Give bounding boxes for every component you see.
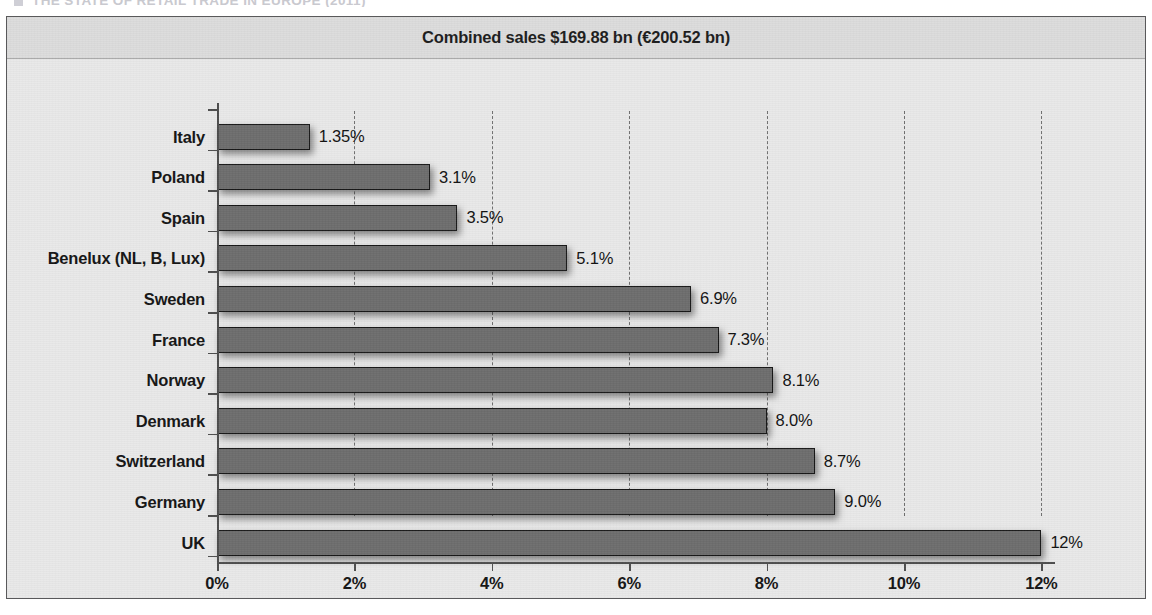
bar-row[interactable]: 1.35% [217, 116, 365, 157]
y-tick [208, 150, 217, 152]
bar-germany[interactable] [217, 489, 835, 515]
bar-value-label: 7.3% [728, 330, 765, 349]
y-category-sweden: Sweden [144, 289, 205, 308]
bar-denmark[interactable] [217, 408, 767, 434]
document-headline: THE STATE OF RETAIL TRADE IN EUROPE (201… [14, 0, 814, 7]
x-tick-8pct [767, 562, 769, 571]
bar-value-label: 8.0% [776, 411, 813, 430]
bar-benelux-nl-b-lux[interactable] [217, 245, 567, 271]
bar-value-label: 3.1% [439, 168, 476, 187]
bar-value-label: 9.0% [844, 492, 881, 511]
x-tick-12pct [1041, 562, 1043, 571]
y-category-spain: Spain [161, 208, 205, 227]
x-tick-label-6pct: 6% [617, 574, 640, 593]
combined-sales-label: Combined sales $169.88 bn (€200.52 bn) [422, 28, 730, 47]
y-tick [208, 353, 217, 355]
bar-sweden[interactable] [217, 286, 691, 312]
y-category-poland: Poland [151, 168, 205, 187]
bar-switzerland[interactable] [217, 448, 815, 474]
chart-header-bar: Combined sales $169.88 bn (€200.52 bn) [7, 17, 1145, 59]
y-tick [208, 312, 217, 314]
bar-france[interactable] [217, 327, 719, 353]
y-tick [208, 109, 217, 111]
bar-italy[interactable] [217, 124, 310, 150]
x-tick-10pct [904, 562, 906, 571]
x-tick-label-4pct: 4% [480, 574, 503, 593]
bar-row[interactable]: 5.1% [217, 238, 613, 279]
bar-value-label: 3.5% [466, 208, 503, 227]
y-tick [208, 190, 217, 192]
x-tick-6pct [629, 562, 631, 571]
y-tick [208, 393, 217, 395]
x-axis-line [217, 562, 1055, 564]
bar-norway[interactable] [217, 367, 773, 393]
y-tick [208, 231, 217, 233]
bar-row[interactable]: 3.5% [217, 197, 503, 238]
bar-value-label: 1.35% [319, 127, 365, 146]
plot-wrapper: 1.35%3.1%3.5%5.1%6.9%7.3%8.1%8.0%8.7%9.0… [7, 59, 1146, 599]
y-category-france: France [152, 330, 205, 349]
bar-value-label: 6.9% [700, 289, 737, 308]
y-category-norway: Norway [147, 371, 205, 390]
chart-panel: Combined sales $169.88 bn (€200.52 bn) 1… [6, 16, 1146, 599]
bar-row[interactable]: 8.0% [217, 400, 812, 441]
bar-row[interactable]: 7.3% [217, 319, 764, 360]
bar-value-label: 8.1% [782, 371, 819, 390]
x-tick-4pct [492, 562, 494, 571]
bar-row[interactable]: 8.1% [217, 360, 819, 401]
y-category-benelux-nl-b-lux: Benelux (NL, B, Lux) [48, 249, 205, 268]
x-tick-0pct [217, 562, 219, 571]
bar-row[interactable]: 8.7% [217, 441, 861, 482]
bar-uk[interactable] [217, 530, 1041, 556]
document-headline-text: THE STATE OF RETAIL TRADE IN EUROPE (201… [32, 0, 366, 7]
bar-poland[interactable] [217, 164, 430, 190]
y-tick [208, 515, 217, 517]
x-tick-label-12pct: 12% [1025, 574, 1057, 593]
x-tick-label-2pct: 2% [343, 574, 366, 593]
y-category-switzerland: Switzerland [116, 452, 206, 471]
y-category-uk: UK [182, 533, 205, 552]
x-tick-label-10pct: 10% [888, 574, 920, 593]
bar-value-label: 8.7% [824, 452, 861, 471]
y-category-germany: Germany [135, 492, 205, 511]
bar-value-label: 12% [1050, 533, 1082, 552]
bar-value-label: 5.1% [576, 249, 613, 268]
y-tick [208, 556, 217, 558]
bar-row[interactable]: 9.0% [217, 481, 881, 522]
figure-page: THE STATE OF RETAIL TRADE IN EUROPE (201… [0, 0, 1152, 615]
y-tick [208, 474, 217, 476]
y-category-italy: Italy [173, 127, 205, 146]
x-tick-label-8pct: 8% [755, 574, 778, 593]
bars-layer: 1.35%3.1%3.5%5.1%6.9%7.3%8.1%8.0%8.7%9.0… [217, 111, 1117, 562]
x-tick-2pct [354, 562, 356, 571]
x-tick-label-0pct: 0% [205, 574, 228, 593]
y-axis-line [217, 103, 219, 562]
plot-area: 1.35%3.1%3.5%5.1%6.9%7.3%8.1%8.0%8.7%9.0… [217, 111, 1117, 562]
bar-row[interactable]: 12% [217, 522, 1083, 563]
bar-row[interactable]: 6.9% [217, 278, 737, 319]
y-category-denmark: Denmark [136, 411, 205, 430]
bar-row[interactable]: 3.1% [217, 157, 476, 198]
bar-spain[interactable] [217, 205, 457, 231]
y-tick [208, 271, 217, 273]
bullet-icon [14, 0, 23, 6]
y-tick [208, 434, 217, 436]
